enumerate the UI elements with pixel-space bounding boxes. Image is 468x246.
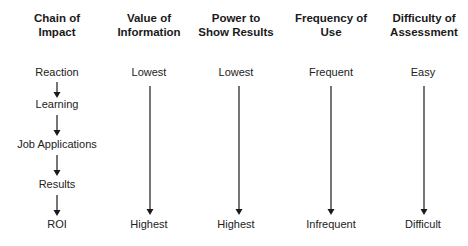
arrow-down-icon (328, 86, 335, 215)
arrow-down-icon (236, 86, 243, 215)
arrow-down-icon (54, 82, 61, 98)
arrows-layer (0, 0, 468, 246)
arrow-down-icon (54, 155, 61, 176)
arrow-down-icon (421, 86, 428, 215)
arrow-down-icon (54, 195, 61, 216)
arrow-down-icon (54, 115, 61, 136)
arrow-down-icon (147, 86, 154, 215)
